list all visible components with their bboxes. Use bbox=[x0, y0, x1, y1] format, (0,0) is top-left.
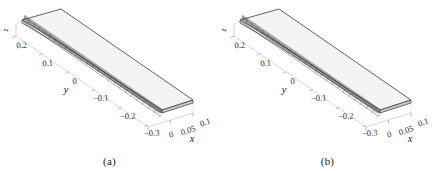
x-axis-title: x bbox=[407, 133, 413, 144]
surface-plot-b: 0.2 0.1 0 −0.1 −0.2 −0.3 0 0.05 0.1 y x … bbox=[218, 0, 437, 145]
surface-plot-a: 0.2 0.1 0 −0.1 −0.2 −0.3 0 0.05 0.1 y x … bbox=[0, 0, 219, 145]
panel-b-caption: (b) bbox=[218, 155, 437, 167]
x-tick-label: 0.1 bbox=[416, 116, 429, 129]
y-tick-label: 0.2 bbox=[234, 39, 246, 50]
y-tick-label: −0.3 bbox=[361, 127, 378, 139]
y-axis-title: y bbox=[63, 84, 69, 95]
y-tick-label: −0.1 bbox=[310, 92, 327, 104]
panel-b: 0.2 0.1 0 −0.1 −0.2 −0.3 0 0.05 0.1 y x … bbox=[218, 0, 437, 171]
y-tick-label: 0.1 bbox=[42, 57, 54, 68]
z-axis-title: z bbox=[2, 28, 10, 32]
y-tick-label: 0.1 bbox=[260, 57, 272, 68]
y-tick-label: −0.2 bbox=[119, 110, 136, 122]
y-tick-label: 0.2 bbox=[16, 39, 28, 50]
panel-a-caption: (a) bbox=[0, 155, 219, 167]
y-axis-title: y bbox=[281, 84, 287, 95]
panel-a: 0.2 0.1 0 −0.1 −0.2 −0.3 0 0.05 0.1 y x … bbox=[0, 0, 219, 171]
y-tick-label: −0.2 bbox=[337, 110, 354, 122]
x-tick-label: 0 bbox=[385, 129, 392, 140]
z-axis-title: z bbox=[220, 28, 228, 32]
x-axis-title: x bbox=[189, 133, 195, 144]
x-tick-label: 0.1 bbox=[198, 116, 211, 129]
y-tick-label: −0.1 bbox=[92, 92, 109, 104]
figure-two-panel-surface-plots: 0.2 0.1 0 −0.1 −0.2 −0.3 0 0.05 0.1 y x … bbox=[0, 0, 437, 171]
y-tick-label: −0.3 bbox=[143, 127, 160, 139]
x-tick-label: 0 bbox=[167, 129, 174, 140]
surface-plot-b-canvas: 0.2 0.1 0 −0.1 −0.2 −0.3 0 0.05 0.1 y x … bbox=[218, 0, 437, 145]
surface-plot-a-canvas: 0.2 0.1 0 −0.1 −0.2 −0.3 0 0.05 0.1 y x … bbox=[0, 0, 219, 145]
